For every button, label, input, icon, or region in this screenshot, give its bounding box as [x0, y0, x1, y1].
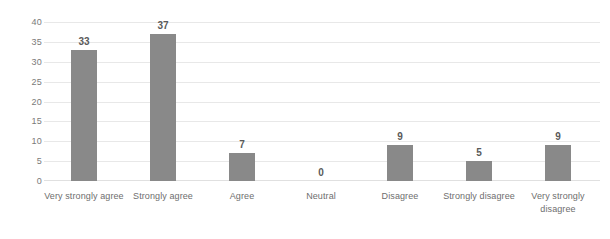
bar-value-label: 0 [318, 167, 324, 178]
x-tick-label: Strongly disagree [436, 190, 522, 203]
y-tick-label: 5 [37, 156, 42, 166]
bars-layer: 33 37 7 0 9 5 9 [44, 22, 600, 181]
bar[interactable] [466, 161, 492, 181]
bar[interactable] [71, 50, 97, 181]
bar-value-label: 33 [78, 36, 89, 47]
x-axis-category-labels: Very strongly agree Strongly agree Agree… [44, 190, 600, 235]
bar-value-label: 9 [555, 131, 561, 142]
y-tick-label: 25 [32, 77, 42, 87]
bar[interactable] [387, 145, 413, 181]
x-tick-label: Very strongly disagree [515, 190, 601, 216]
bar[interactable] [545, 145, 571, 181]
bar[interactable] [150, 34, 176, 181]
bar-value-label: 7 [239, 139, 245, 150]
y-tick-label: 10 [32, 136, 42, 146]
x-tick-label: Strongly agree [120, 190, 206, 203]
x-tick-label: Agree [199, 190, 285, 203]
x-tick-label: Neutral [278, 190, 364, 203]
y-tick-label: 0 [37, 176, 42, 186]
bar-value-label: 5 [476, 147, 482, 158]
y-tick-label: 20 [32, 97, 42, 107]
y-tick-label: 40 [32, 17, 42, 27]
y-tick-label: 35 [32, 37, 42, 47]
x-tick-label: Very strongly agree [41, 190, 127, 203]
bar-chart: 40 35 30 25 20 15 10 5 0 33 37 7 0 9 5 9… [0, 0, 610, 239]
bar-value-label: 9 [397, 131, 403, 142]
y-axis: 40 35 30 25 20 15 10 5 0 [22, 22, 42, 181]
y-tick-label: 30 [32, 57, 42, 67]
y-tick-label: 15 [32, 116, 42, 126]
x-tick-label: Disagree [357, 190, 443, 203]
bar[interactable] [229, 153, 255, 181]
bar-value-label: 37 [157, 20, 168, 31]
